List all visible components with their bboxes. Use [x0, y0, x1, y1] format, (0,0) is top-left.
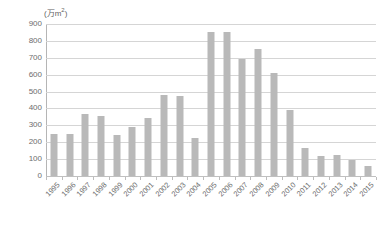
- bar: [286, 110, 293, 176]
- y-axis-tick-label: 100: [2, 155, 42, 163]
- bar: [129, 127, 136, 176]
- bar: [82, 114, 89, 176]
- x-axis-tick: [345, 177, 346, 180]
- bar: [223, 32, 230, 176]
- x-axis-tick: [62, 177, 63, 180]
- y-axis-tick-label: 500: [2, 88, 42, 96]
- x-axis-tick: [109, 177, 110, 180]
- bar-slot: [109, 24, 125, 176]
- x-axis-tick: [360, 177, 361, 180]
- bar: [255, 49, 262, 176]
- bar: [207, 32, 214, 176]
- y-axis-tick-labels: 9008007006005004003002001000: [0, 24, 42, 176]
- bar-slot: [125, 24, 141, 176]
- bar: [176, 96, 183, 176]
- plot-area: [46, 24, 376, 176]
- x-axis-tick: [297, 177, 298, 180]
- bar: [192, 138, 199, 176]
- bar: [365, 166, 372, 176]
- bar-slot: [313, 24, 329, 176]
- x-axis-tick: [77, 177, 78, 180]
- bar-slot: [62, 24, 78, 176]
- x-axis-tick: [156, 177, 157, 180]
- bar-slot: [187, 24, 203, 176]
- y-axis-unit-label: (万m2): [44, 7, 67, 18]
- y-axis-tick-label: 900: [2, 20, 42, 28]
- bar-slot: [282, 24, 298, 176]
- x-axis-tick: [313, 177, 314, 180]
- x-axis-tick: [140, 177, 141, 180]
- bar: [270, 73, 277, 176]
- bar-slot: [172, 24, 188, 176]
- bar-slot: [235, 24, 251, 176]
- y-axis-tick-label: 400: [2, 104, 42, 112]
- bar-slot: [140, 24, 156, 176]
- x-axis-tick: [376, 177, 377, 180]
- y-axis-unit-suffix: ): [65, 9, 68, 18]
- y-axis-tick-label: 700: [2, 54, 42, 62]
- bar-slot: [219, 24, 235, 176]
- x-axis-tick: [203, 177, 204, 180]
- bar-slot: [345, 24, 361, 176]
- x-axis-tick: [172, 177, 173, 180]
- bar-series: [46, 24, 376, 176]
- bar: [302, 148, 309, 176]
- x-axis-tick-labels: 1995199619971998199920002001200220032004…: [46, 181, 376, 226]
- bar-chart: (万m2) 9008007006005004003002001000 19951…: [0, 0, 386, 226]
- x-axis-tick: [187, 177, 188, 180]
- bar-slot: [46, 24, 62, 176]
- bar-slot: [93, 24, 109, 176]
- bar-slot: [250, 24, 266, 176]
- x-axis-tick: [93, 177, 94, 180]
- x-axis-tick: [235, 177, 236, 180]
- bar-slot: [329, 24, 345, 176]
- y-axis-tick-label: 200: [2, 138, 42, 146]
- x-axis-tick: [329, 177, 330, 180]
- bar: [97, 116, 104, 176]
- x-axis-tick: [46, 177, 47, 180]
- bar: [66, 134, 73, 176]
- y-axis-unit-prefix: (万m: [44, 9, 61, 18]
- y-axis-tick-label: 800: [2, 37, 42, 45]
- bar: [160, 95, 167, 176]
- y-axis-tick-label: 600: [2, 71, 42, 79]
- x-axis-tick: [282, 177, 283, 180]
- bar: [333, 155, 340, 176]
- y-axis-tick-label: 0: [2, 172, 42, 180]
- bar: [349, 160, 356, 176]
- bar-slot: [203, 24, 219, 176]
- bar: [239, 59, 246, 176]
- bar-slot: [156, 24, 172, 176]
- bar-slot: [266, 24, 282, 176]
- bar-slot: [297, 24, 313, 176]
- x-axis-tick: [219, 177, 220, 180]
- bar: [145, 118, 152, 176]
- bar: [50, 134, 57, 176]
- bar: [317, 156, 324, 176]
- x-axis-tick: [250, 177, 251, 180]
- bar-slot: [360, 24, 376, 176]
- y-axis-tick-label: 300: [2, 121, 42, 129]
- x-axis-tick: [125, 177, 126, 180]
- bar-slot: [77, 24, 93, 176]
- x-axis-tick: [266, 177, 267, 180]
- bar: [113, 135, 120, 176]
